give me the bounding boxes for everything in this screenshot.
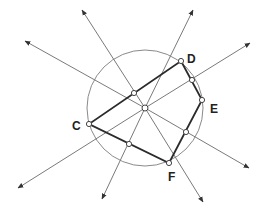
- vertex-point-f: [166, 160, 171, 165]
- vertex-point-c: [86, 121, 91, 126]
- midpoint-de: [189, 77, 194, 82]
- circumcenter-point: [142, 105, 148, 111]
- quadrilateral-edges: [89, 61, 202, 163]
- vertex-label-e: E: [210, 102, 218, 116]
- diagram-canvas: D E F C: [0, 0, 266, 210]
- midpoint-fc: [126, 141, 131, 146]
- midpoint-ef: [183, 129, 188, 134]
- vertex-point-e: [199, 97, 204, 102]
- quadrilateral-cdef: [89, 61, 202, 163]
- vertex-label-c: C: [72, 119, 81, 133]
- vertex-label-f: F: [168, 170, 175, 184]
- vertex-labels: D E F C: [72, 52, 218, 184]
- vertex-point-d: [178, 58, 183, 63]
- vertex-label-d: D: [187, 52, 196, 66]
- midpoint-cd: [131, 90, 136, 95]
